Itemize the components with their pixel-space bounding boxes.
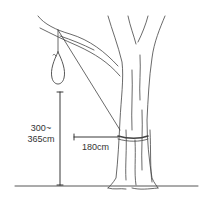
trunk-right-edge	[147, 16, 165, 188]
food-bag	[51, 52, 64, 84]
tree-illustration	[0, 0, 215, 209]
branch-top-edge	[38, 16, 118, 66]
diagram-canvas: 300~ 365cm 180cm	[0, 0, 215, 209]
trunk-left-edge	[108, 16, 123, 188]
height-label-line1: 300~	[26, 123, 56, 134]
height-label-line2: 365cm	[26, 134, 56, 145]
distance-label: 180cm	[82, 142, 109, 153]
height-label: 300~ 365cm	[26, 123, 56, 145]
rope	[58, 30, 120, 130]
rope-wrap	[118, 136, 148, 138]
